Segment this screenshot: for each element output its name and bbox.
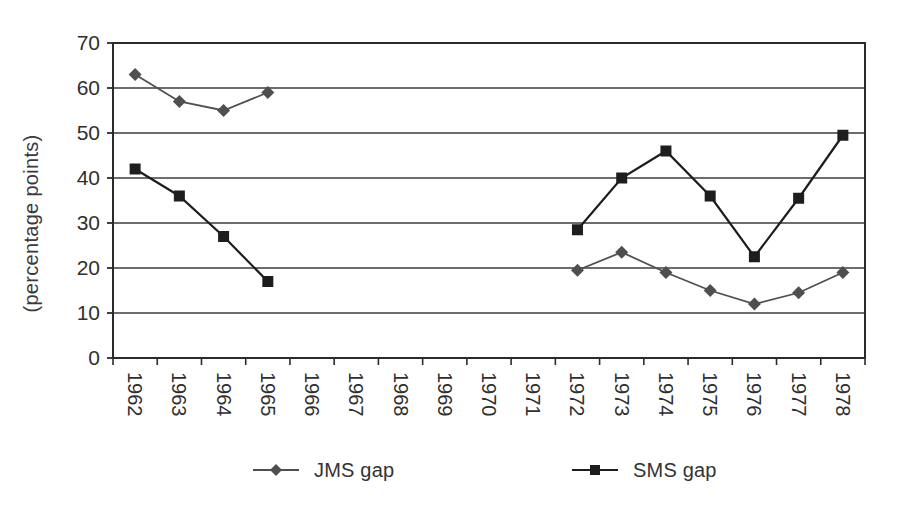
marker-sms-gap-1965 — [262, 276, 273, 287]
marker-sms-gap-1963 — [174, 191, 185, 202]
x-tick-label-1964: 1964 — [213, 372, 235, 417]
x-tick-label-1971: 1971 — [522, 372, 544, 417]
marker-sms-gap-1974 — [660, 146, 671, 157]
jms-line-diamond-marker-icon — [253, 462, 299, 478]
y-axis-title: (percentage points) — [20, 104, 43, 344]
plot-area: 0102030405060701962196319641965196619671… — [0, 0, 899, 445]
legend-item-sms-gap: SMS gap — [572, 457, 717, 483]
x-tick-label-1963: 1963 — [168, 372, 190, 417]
y-tick-label-50: 50 — [77, 121, 100, 144]
marker-jms-gap-1972 — [571, 264, 584, 277]
x-tick-label-1976: 1976 — [743, 372, 765, 417]
marker-sms-gap-1972 — [572, 224, 583, 235]
x-tick-label-1965: 1965 — [257, 372, 279, 417]
marker-jms-gap-1976 — [748, 298, 761, 311]
x-tick-label-1962: 1962 — [124, 372, 146, 417]
marker-sms-gap-1973 — [616, 173, 627, 184]
marker-jms-gap-1975 — [704, 284, 717, 297]
marker-sms-gap-1978 — [837, 130, 848, 141]
marker-jms-gap-1963 — [173, 95, 186, 108]
x-tick-label-1970: 1970 — [478, 372, 500, 417]
x-tick-label-1967: 1967 — [345, 372, 367, 417]
x-tick-label-1968: 1968 — [390, 372, 412, 417]
y-tick-label-60: 60 — [77, 76, 100, 99]
legend-item-jms-gap: JMS gap — [253, 457, 394, 483]
legend-label-sms: SMS gap — [633, 459, 717, 482]
y-tick-label-70: 70 — [77, 31, 100, 54]
x-tick-label-1973: 1973 — [611, 372, 633, 417]
x-tick-label-1972: 1972 — [566, 372, 588, 417]
marker-sms-gap-1977 — [793, 193, 804, 204]
legend-label-jms: JMS gap — [314, 459, 394, 482]
x-tick-label-1978: 1978 — [832, 372, 854, 417]
x-tick-label-1969: 1969 — [434, 372, 456, 417]
x-tick-label-1974: 1974 — [655, 372, 677, 417]
x-tick-label-1977: 1977 — [788, 372, 810, 417]
y-tick-label-20: 20 — [77, 256, 100, 279]
chart-figure: 0102030405060701962196319641965196619671… — [0, 0, 899, 510]
y-tick-label-30: 30 — [77, 211, 100, 234]
marker-jms-gap-1973 — [615, 246, 628, 259]
marker-sms-gap-1962 — [130, 164, 141, 175]
x-tick-label-1966: 1966 — [301, 372, 323, 417]
y-tick-label-10: 10 — [77, 301, 100, 324]
marker-sms-gap-1975 — [705, 191, 716, 202]
x-tick-label-1975: 1975 — [699, 372, 721, 417]
marker-jms-gap-1977 — [792, 286, 805, 299]
marker-sms-gap-1976 — [749, 251, 760, 262]
y-tick-label-40: 40 — [77, 166, 100, 189]
legend: JMS gap SMS gap — [0, 457, 899, 487]
series-line-sms-gap — [135, 169, 268, 282]
sms-line-square-marker-icon — [572, 462, 618, 478]
marker-jms-gap-1964 — [217, 104, 230, 117]
marker-sms-gap-1964 — [218, 231, 229, 242]
plot-frame — [113, 43, 865, 358]
y-tick-label-0: 0 — [88, 346, 100, 369]
marker-jms-gap-1962 — [129, 68, 142, 81]
series-line-jms-gap — [135, 75, 268, 111]
